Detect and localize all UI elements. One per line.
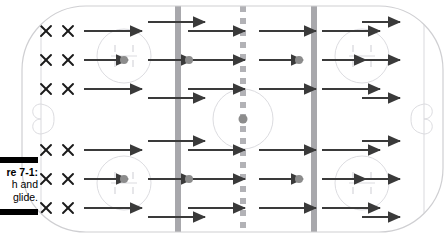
puck-upper-left	[120, 56, 128, 64]
puck-upper-right	[295, 56, 303, 64]
figure-caption: re 7-1: h and glide.	[0, 157, 38, 215]
ice-surface	[22, 6, 443, 232]
puck-lower-left	[120, 175, 128, 183]
left-blue-line	[175, 6, 181, 232]
caption-line-3: glide.	[0, 191, 38, 203]
puck-lower-center	[185, 175, 193, 183]
caption-line-2: h and	[0, 178, 38, 190]
puck-lower-right	[295, 175, 303, 183]
caption-text: re 7-1: h and glide.	[0, 163, 38, 204]
caption-rule-bottom	[0, 209, 38, 215]
right-blue-line	[311, 6, 317, 232]
figure-container: re 7-1: h and glide.	[0, 0, 445, 236]
caption-line-1: re 7-1:	[0, 166, 38, 178]
hockey-rink-diagram	[0, 0, 445, 236]
puck-upper-center	[185, 56, 193, 64]
puck-center-ice	[239, 115, 248, 124]
